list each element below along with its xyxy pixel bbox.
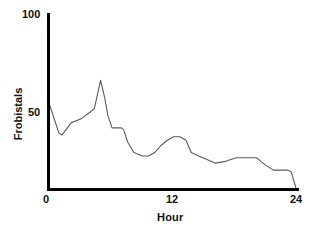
x-axis-title: Hour	[157, 212, 183, 223]
y-axis-title: Frobistals	[12, 74, 24, 154]
x-tick-label-0: 0	[43, 194, 49, 205]
y-tick-label-50: 50	[28, 107, 40, 118]
chart-figure: Frobistals 100 50 0 12 24 Hour	[0, 0, 322, 240]
x-tick-label-12: 12	[166, 194, 178, 205]
x-tick-label-24: 24	[290, 194, 302, 205]
y-axis-title-wrapper: Frobistals	[0, 0, 30, 200]
y-tick-label-100: 100	[22, 9, 40, 20]
